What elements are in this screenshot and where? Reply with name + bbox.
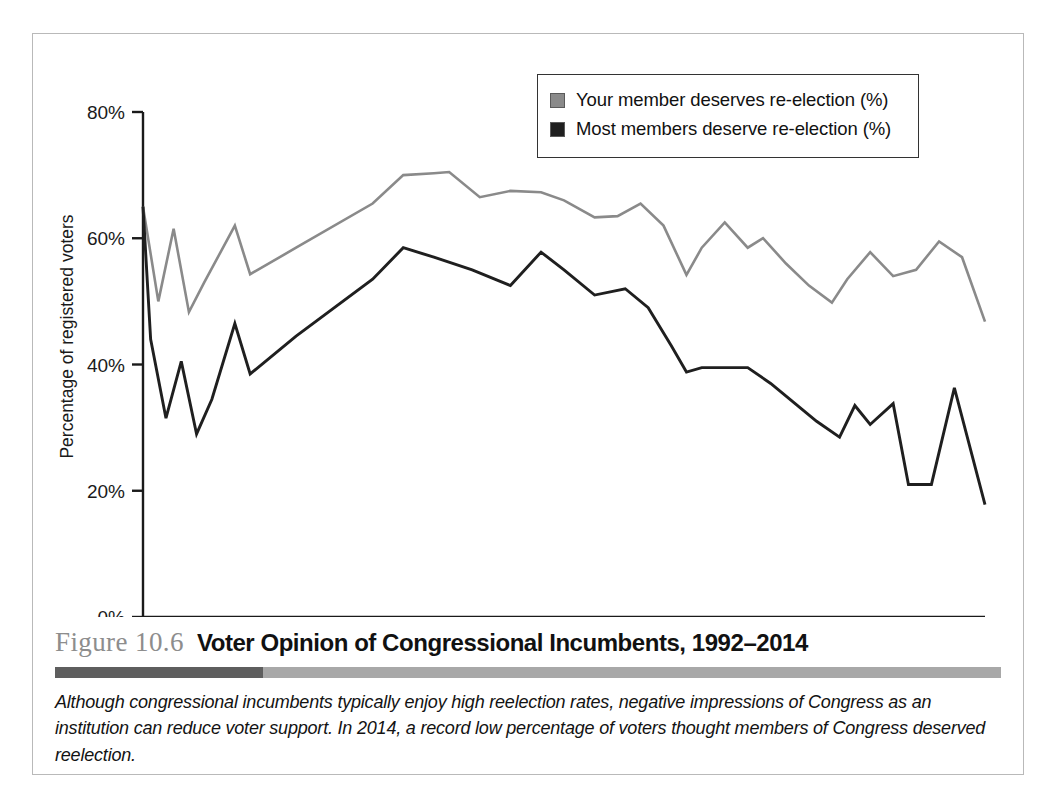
svg-text:Percentage of registered voter: Percentage of registered voters: [57, 214, 77, 458]
legend-swatch-most-members: [550, 122, 565, 137]
legend-item-most-members: Most members deserve re-election (%): [550, 118, 906, 140]
svg-text:40%: 40%: [87, 355, 125, 376]
svg-text:60%: 60%: [87, 228, 125, 249]
legend-swatch-your-member: [550, 93, 565, 108]
figure-title-line: Figure 10.6 Voter Opinion of Congression…: [55, 627, 1001, 658]
chart-axis-labels: 0%20%40%60%80%19921994199619982000200220…: [57, 102, 1007, 617]
series-line-most-members: [143, 207, 985, 505]
chart-legend: Your member deserves re-election (%) Mos…: [537, 74, 919, 158]
figure-number: Figure 10.6: [55, 627, 184, 658]
legend-label-most-members: Most members deserve re-election (%): [576, 118, 891, 140]
legend-label-your-member: Your member deserves re-election (%): [576, 89, 888, 111]
svg-text:0%: 0%: [98, 607, 126, 617]
rule-segment-dark: [55, 667, 263, 678]
chart-series-group: [143, 172, 985, 505]
rule-segment-light: [263, 667, 1001, 678]
svg-text:80%: 80%: [87, 102, 125, 123]
series-line-your-member: [143, 172, 985, 322]
decorative-rule: [55, 667, 1001, 678]
svg-text:20%: 20%: [87, 481, 125, 502]
figure-title: Voter Opinion of Congressional Incumbent…: [197, 629, 808, 657]
figure-card: 0%20%40%60%80%19921994199619982000200220…: [32, 33, 1024, 775]
figure-caption-text: Although congressional incumbents typica…: [55, 689, 1001, 768]
legend-item-your-member: Your member deserves re-election (%): [550, 89, 906, 111]
figure-caption-block: Figure 10.6 Voter Opinion of Congression…: [33, 617, 1023, 768]
